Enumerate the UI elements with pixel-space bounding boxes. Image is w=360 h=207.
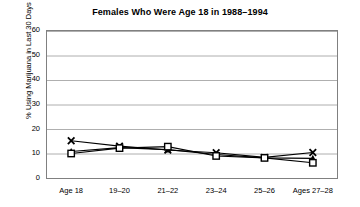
x-tick-1: 19–20: [109, 186, 130, 195]
x-tick-0: Age 18: [59, 186, 83, 195]
series-line-series-square: [71, 147, 313, 163]
plot-frame: [47, 31, 338, 179]
x-tick-5: Ages 27–28: [293, 186, 333, 195]
datapoint-series-square-2: [165, 143, 171, 149]
data-series-layer: [68, 137, 316, 166]
datapoint-series-square-0: [68, 150, 74, 156]
x-tick-2: 21–22: [157, 186, 178, 195]
datapoint-series-square-4: [261, 155, 267, 161]
plot-area: [0, 0, 360, 207]
datapoint-series-square-3: [213, 153, 219, 159]
x-tick-4: 25–26: [254, 186, 275, 195]
x-tick-3: 23–24: [206, 186, 227, 195]
gridlines: [47, 32, 337, 155]
datapoint-series-square-1: [116, 145, 122, 151]
datapoint-series-square-5: [310, 160, 316, 166]
chart-container: Females Who Were Age 18 in 1988–1994 % U…: [0, 0, 360, 207]
